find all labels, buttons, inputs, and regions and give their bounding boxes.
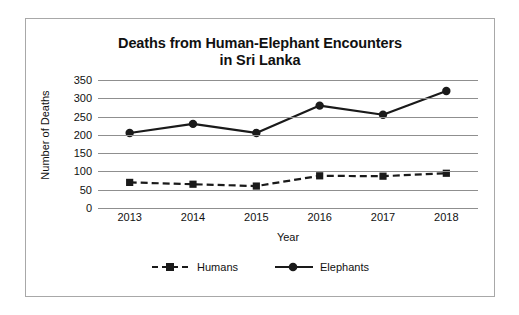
data-point-elephants-2016[interactable] — [315, 101, 323, 109]
data-point-humans-2015[interactable] — [253, 182, 260, 189]
x-axis-tick-labels: 201320142015201620172018 — [98, 211, 478, 227]
data-point-humans-2013[interactable] — [126, 179, 133, 186]
x-axis-tick-label: 2013 — [117, 211, 141, 223]
data-point-humans-2016[interactable] — [316, 172, 323, 179]
legend-item-elephants[interactable]: Elephants — [274, 261, 369, 273]
y-axis-tick-label: 300 — [52, 92, 92, 104]
data-point-humans-2014[interactable] — [189, 181, 196, 188]
x-axis-tick-label: 2018 — [434, 211, 458, 223]
plot-wrapper: Number of Deaths 050100150200250300350 2… — [26, 19, 494, 296]
data-point-elephants-2014[interactable] — [189, 120, 197, 128]
legend-marker-solid-circle-icon — [274, 261, 314, 273]
gridline — [98, 80, 478, 81]
data-point-humans-2017[interactable] — [379, 173, 386, 180]
data-point-elephants-2018[interactable] — [442, 87, 450, 95]
y-axis-tick-label: 350 — [52, 74, 92, 86]
x-axis-tick-label: 2014 — [181, 211, 205, 223]
y-axis-tick-label: 250 — [52, 111, 92, 123]
gridline — [98, 171, 478, 172]
data-point-elephants-2015[interactable] — [252, 129, 260, 137]
chart-figure-frame: Deaths from Human-Elephant Encounters in… — [25, 18, 495, 297]
series-line-elephants — [130, 91, 447, 133]
y-axis-tick-label: 0 — [52, 202, 92, 214]
gridline — [98, 117, 478, 118]
data-point-elephants-2017[interactable] — [379, 111, 387, 119]
x-axis-tick-label: 2016 — [307, 211, 331, 223]
gridline — [98, 153, 478, 154]
series-line-humans — [130, 173, 447, 186]
y-axis-tick-label: 150 — [52, 147, 92, 159]
x-axis-tick-label: 2017 — [371, 211, 395, 223]
y-axis-tick-label: 100 — [52, 165, 92, 177]
y-axis-tick-labels: 050100150200250300350 — [52, 80, 92, 208]
legend-item-humans[interactable]: Humans — [151, 261, 238, 273]
gridline — [98, 98, 478, 99]
y-axis-tick-label: 50 — [52, 184, 92, 196]
chart-legend: Humans Elephants — [26, 261, 494, 273]
y-axis-title: Number of Deaths — [39, 70, 51, 200]
plot-area — [98, 80, 478, 208]
x-axis-title: Year — [98, 231, 478, 243]
legend-marker-dashed-square-icon — [151, 261, 191, 273]
gridline — [98, 135, 478, 136]
legend-label-humans: Humans — [197, 261, 238, 273]
gridline — [98, 190, 478, 191]
gridline — [98, 208, 478, 209]
y-axis-tick-label: 200 — [52, 129, 92, 141]
data-point-elephants-2013[interactable] — [125, 129, 133, 137]
x-axis-tick-label: 2015 — [244, 211, 268, 223]
legend-label-elephants: Elephants — [320, 261, 369, 273]
